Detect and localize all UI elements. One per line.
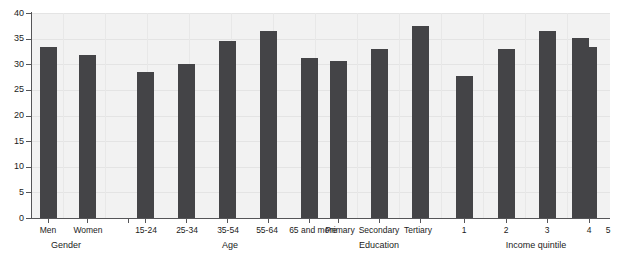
gridline-horizontal bbox=[31, 39, 610, 40]
x-tick-mark bbox=[464, 219, 465, 223]
category-label-25-34: 25-34 bbox=[176, 225, 198, 235]
x-tick-mark bbox=[87, 219, 88, 223]
bar-quintile-2 bbox=[498, 49, 515, 218]
y-tick-label: 25 bbox=[14, 85, 24, 94]
y-tick-mark bbox=[26, 116, 32, 117]
category-label-women: Women bbox=[73, 225, 102, 235]
category-label-secondary: Secondary bbox=[359, 225, 400, 235]
y-tick-label: 15 bbox=[14, 137, 24, 146]
group-label-education: Education bbox=[359, 240, 399, 251]
bar-women bbox=[79, 55, 96, 218]
category-label-35-54: 35-54 bbox=[217, 225, 239, 235]
category-label-15-24: 15-24 bbox=[135, 225, 157, 235]
x-tick-mark bbox=[338, 219, 339, 223]
category-label-quintile-4: 4 bbox=[587, 225, 592, 235]
group-label-age: Age bbox=[222, 240, 238, 251]
y-tick-mark bbox=[26, 39, 32, 40]
bar-secondary bbox=[371, 49, 388, 218]
y-tick-mark bbox=[26, 13, 32, 14]
x-tick-mark bbox=[128, 219, 129, 223]
gridline-horizontal bbox=[31, 64, 610, 65]
category-label-55-64: 55-64 bbox=[256, 225, 278, 235]
bar-65-and-more bbox=[301, 58, 318, 218]
bar-quintile-5-visible bbox=[580, 47, 597, 218]
x-tick-mark bbox=[309, 219, 310, 223]
category-label-quintile-2: 2 bbox=[504, 225, 509, 235]
y-tick-label: 5 bbox=[19, 188, 24, 197]
group-label-gender: Gender bbox=[51, 240, 81, 251]
bar-quintile-1 bbox=[456, 76, 473, 218]
x-tick-mark bbox=[589, 219, 590, 223]
y-tick-mark bbox=[26, 218, 32, 219]
gridline-vertical bbox=[357, 13, 358, 218]
y-tick-label: 35 bbox=[14, 34, 24, 43]
x-tick-mark bbox=[268, 219, 269, 223]
gridline-horizontal bbox=[31, 192, 610, 193]
bar-chart: 0 5 10 15 20 25 30 35 40 Men Women Gende… bbox=[0, 0, 617, 261]
x-tick-mark bbox=[145, 219, 146, 223]
gridline-horizontal bbox=[31, 167, 610, 168]
gridline-vertical bbox=[525, 13, 526, 218]
y-tick-mark bbox=[26, 167, 32, 168]
bar-55-64 bbox=[260, 31, 277, 218]
x-tick-mark bbox=[186, 219, 187, 223]
gridline-vertical bbox=[483, 13, 484, 218]
y-tick-label: 10 bbox=[14, 162, 24, 171]
x-tick-mark bbox=[506, 219, 507, 223]
category-label-quintile-3: 3 bbox=[545, 225, 550, 235]
bar-men bbox=[40, 47, 57, 218]
gridline-horizontal bbox=[31, 13, 610, 14]
x-axis-line bbox=[31, 218, 610, 219]
y-tick-mark bbox=[26, 141, 32, 142]
x-tick-mark bbox=[48, 219, 49, 223]
bar-35-54 bbox=[219, 41, 236, 218]
gridline-vertical bbox=[63, 13, 64, 218]
bar-25-34 bbox=[178, 64, 195, 218]
x-tick-mark bbox=[379, 219, 380, 223]
gridline-vertical bbox=[105, 13, 106, 218]
plot-area bbox=[31, 13, 610, 218]
category-label-primary: Primary bbox=[325, 225, 354, 235]
x-tick-mark bbox=[420, 219, 421, 223]
y-tick-label: 0 bbox=[19, 214, 24, 223]
y-tick-label: 40 bbox=[14, 9, 24, 18]
y-tick-mark bbox=[26, 64, 32, 65]
y-tick-mark bbox=[26, 90, 32, 91]
y-tick-label: 30 bbox=[14, 60, 24, 69]
x-tick-mark bbox=[547, 219, 548, 223]
bar-tertiary bbox=[412, 26, 429, 218]
category-label-quintile-1: 1 bbox=[462, 225, 467, 235]
group-label-income-quintile: Income quintile bbox=[506, 240, 567, 251]
y-tick-label: 20 bbox=[14, 111, 24, 120]
x-tick-mark bbox=[227, 219, 228, 223]
gridline-horizontal bbox=[31, 141, 610, 142]
gridline-vertical bbox=[567, 13, 568, 218]
category-label-men: Men bbox=[40, 225, 57, 235]
bar-15-24 bbox=[137, 72, 154, 218]
y-tick-mark bbox=[26, 192, 32, 193]
gridline-horizontal bbox=[31, 116, 610, 117]
gridline-vertical bbox=[441, 13, 442, 218]
category-label-quintile-5: 5 bbox=[606, 225, 611, 235]
gridline-horizontal bbox=[31, 90, 610, 91]
gridline-vertical bbox=[399, 13, 400, 218]
category-label-tertiary: Tertiary bbox=[404, 225, 432, 235]
bar-primary bbox=[330, 61, 347, 218]
bar-quintile-3 bbox=[539, 31, 556, 218]
